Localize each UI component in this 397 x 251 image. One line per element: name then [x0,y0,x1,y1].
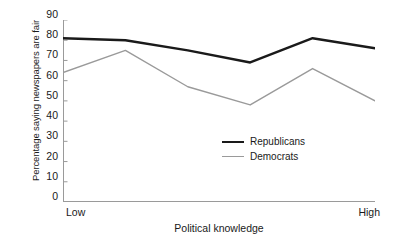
y-tick-label: 80 [32,29,58,40]
y-tick-label: 40 [32,110,58,121]
y-tick-label: 0 [32,191,58,202]
legend-swatch-democrats [222,156,244,157]
axes [63,20,375,202]
y-tick-label: 90 [32,9,58,20]
legend-item-republicans: Republicans [222,134,305,149]
plot-svg [63,20,375,202]
line-chart-figure: Percentage saying newspapers are fair 90… [0,0,397,251]
y-tick-label: 50 [32,89,58,100]
legend-label-democrats: Democrats [250,151,298,162]
y-tick-label: 70 [32,49,58,60]
y-axis-tick-labels: 9080706050403020100 [32,14,58,208]
y-tick-label: 30 [32,130,58,141]
legend-item-democrats: Democrats [222,149,305,164]
x-axis-label-high: High [358,206,380,218]
y-tick-label: 20 [32,150,58,161]
series-line-democrats [63,50,375,105]
y-tick-label: 60 [32,69,58,80]
y-tick-label: 10 [32,170,58,181]
series-line-republicans [63,38,375,62]
x-axis-label-low: Low [66,206,85,218]
plot-area [63,20,375,202]
data-series [63,38,375,105]
x-axis-title: Political knowledge [63,222,375,234]
chart-legend: Republicans Democrats [222,134,305,164]
legend-label-republicans: Republicans [250,136,305,147]
legend-swatch-republicans [222,141,244,143]
